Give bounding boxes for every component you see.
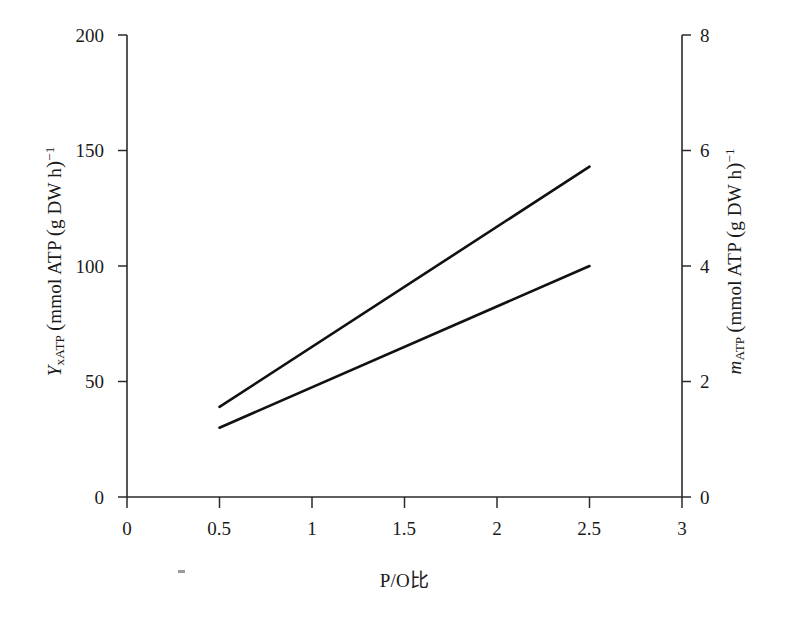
y-axis-left-unit-exponent: −1 (42, 147, 57, 161)
xtick-2: 2 (467, 518, 527, 540)
ytick-right-0: 0 (700, 487, 760, 509)
y-axis-left-unit-open-paren: ( (42, 324, 66, 331)
ytick-left-200: 200 (44, 25, 104, 47)
y-axis-left-symbol-subscript: xATP (52, 335, 67, 365)
series-line-yxatp (220, 167, 590, 407)
y-axis-left-symbol: Y (44, 365, 65, 376)
right-axis-ticks (682, 35, 691, 497)
y-axis-right-unit-text: mmol ATP (724, 242, 745, 325)
y-axis-right-unit-inner: g DW h (724, 170, 745, 231)
figure-container: 200 150 100 50 0 8 6 4 2 0 0 0.5 1 1.5 2… (0, 0, 789, 623)
axis-frame (127, 35, 682, 497)
y-axis-right-unit-inner-close-paren: ) (722, 162, 746, 169)
y-axis-right-unit-open-paren: ( (722, 326, 746, 333)
y-axis-right-symbol-subscript: ATP (732, 337, 747, 361)
left-axis-ticks (118, 35, 127, 497)
y-axis-left-unit-inner-close-paren: ) (42, 161, 66, 168)
xtick-1: 1 (282, 518, 342, 540)
y-axis-left-unit-inner: g DW h (44, 168, 65, 229)
series-line-matp (220, 266, 590, 428)
y-axis-right-unit-inner-open-paren: ( (722, 231, 746, 238)
x-axis-title: P/O比 (127, 565, 682, 592)
x-axis-ticks (127, 497, 682, 508)
y-axis-right-symbol: m (724, 360, 745, 374)
y-axis-right-unit-exponent: −1 (722, 148, 737, 162)
xtick-0-5: 0.5 (189, 518, 249, 540)
ytick-left-0: 0 (44, 487, 104, 509)
xtick-3: 3 (652, 518, 712, 540)
xtick-0: 0 (97, 518, 157, 540)
y-axis-left-unit-inner-open-paren: ( (42, 229, 66, 236)
y-axis-left-unit-text: mmol ATP (44, 240, 65, 323)
ytick-right-8: 8 (700, 25, 760, 47)
xtick-1-5: 1.5 (374, 518, 434, 540)
y-axis-left-title: YxATP(mmol ATP(g DW h)−1 (42, 51, 69, 471)
xtick-2-5: 2.5 (559, 518, 619, 540)
y-axis-right-title: mATP(mmol ATP(g DW h)−1 (722, 51, 749, 471)
